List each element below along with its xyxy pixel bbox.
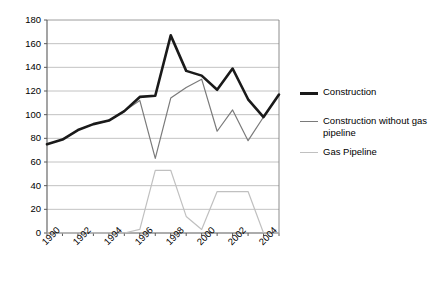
y-tick-label: 80 <box>11 133 41 143</box>
legend-label: Construction <box>323 86 376 98</box>
y-tick-label: 60 <box>11 157 41 167</box>
legend-swatch <box>300 152 318 153</box>
y-tick-label: 160 <box>11 39 41 49</box>
y-tick-label: 20 <box>11 204 41 214</box>
y-tick-label: 120 <box>11 86 41 96</box>
gridlines <box>47 20 279 209</box>
y-tick-label: 100 <box>11 110 41 120</box>
y-tick-label: 0 <box>11 228 41 238</box>
legend-label: Construction without gas pipeline <box>323 115 427 138</box>
y-tick-label: 40 <box>11 181 41 191</box>
series-line <box>47 170 279 233</box>
legend-label: Gas Pipeline <box>323 146 377 158</box>
legend-swatch <box>300 92 318 95</box>
line-chart: 020406080100120140160180 199019921994199… <box>0 0 439 281</box>
chart-canvas <box>0 0 439 281</box>
y-tick-label: 140 <box>11 62 41 72</box>
y-tick-label: 180 <box>11 15 41 25</box>
legend-swatch <box>300 121 318 122</box>
